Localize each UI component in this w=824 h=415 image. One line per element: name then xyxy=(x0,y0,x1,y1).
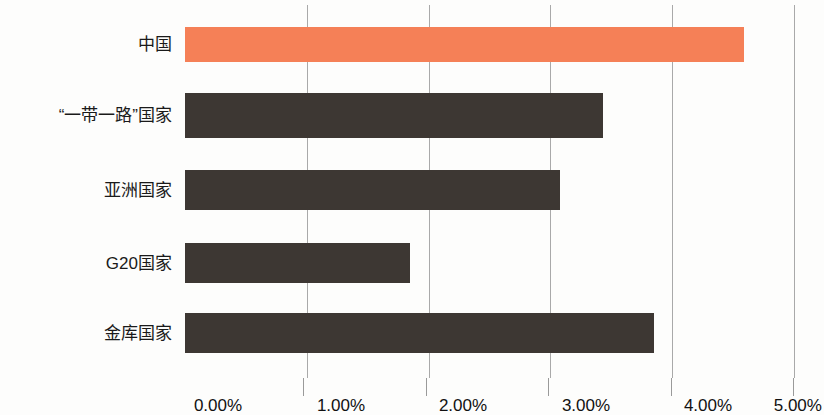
x-tick-label-1: 1.00% xyxy=(317,396,365,415)
bar-asia[interactable] xyxy=(185,170,560,210)
x-tick-mark-1 xyxy=(303,378,304,396)
x-axis: 0.00% 1.00% 2.00% 3.00% 4.00% 5.00% xyxy=(0,378,824,415)
y-axis-category-labels: 中国 “一带一路”国家 亚洲国家 G20国家 金库国家 xyxy=(0,0,172,378)
x-tick-mark-5 xyxy=(793,378,794,396)
bar-belt-and-road[interactable] xyxy=(185,93,603,138)
x-tick-mark-2 xyxy=(426,378,427,396)
x-tick-label-2: 2.00% xyxy=(439,396,487,415)
bar-chart: 中国 “一带一路”国家 亚洲国家 G20国家 金库国家 xyxy=(0,0,824,415)
bar-fill-china xyxy=(185,27,744,62)
y-axis-label-3: G20国家 xyxy=(0,255,172,272)
x-tick-label-3: 3.00% xyxy=(562,396,610,415)
plot-area xyxy=(185,0,794,378)
x-tick-label-5: 5.00% xyxy=(774,396,822,415)
bar-china[interactable] xyxy=(185,27,744,62)
bar-fill-belt-and-road xyxy=(185,93,603,138)
gridline-5pct xyxy=(794,5,795,378)
bar-treasury[interactable] xyxy=(185,313,654,353)
bar-g20[interactable] xyxy=(185,243,410,283)
x-tick-label-0: 0.00% xyxy=(194,396,242,415)
x-tick-mark-3 xyxy=(548,378,549,396)
bar-fill-g20 xyxy=(185,243,410,283)
x-tick-label-4: 4.00% xyxy=(684,396,732,415)
y-axis-label-1: “一带一路”国家 xyxy=(0,107,172,124)
y-axis-label-4: 金库国家 xyxy=(0,325,172,342)
bar-fill-asia xyxy=(185,170,560,210)
y-axis-label-2: 亚洲国家 xyxy=(0,182,172,199)
y-axis-label-0: 中国 xyxy=(0,36,172,53)
x-tick-mark-4 xyxy=(671,378,672,396)
bar-fill-treasury xyxy=(185,313,654,353)
